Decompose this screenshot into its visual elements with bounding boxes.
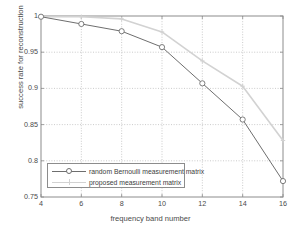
x-tick-label-6: 6 bbox=[79, 200, 83, 207]
y-tick-label-0-8: 0.8 bbox=[2, 157, 38, 164]
x-tick-label-12: 12 bbox=[198, 200, 206, 207]
legend-label-random-bernoulli: random Bernoulli measurement matrix bbox=[89, 168, 204, 175]
y-tick-label-0-75: 0.75 bbox=[2, 193, 38, 200]
x-tick-label-14: 14 bbox=[239, 200, 247, 207]
x-axis-label: frequency band number bbox=[0, 214, 301, 223]
line-chart-plot bbox=[0, 0, 301, 232]
y-axis-label-wrapper: success rate for reconstruction bbox=[9, 0, 27, 137]
y-axis-label: success rate for reconstruction bbox=[16, 5, 25, 108]
x-tick-label-8: 8 bbox=[120, 200, 124, 207]
figure-canvas: 1 0.95 0.9 0.85 0.8 0.75 4 6 8 10 12 14 … bbox=[0, 0, 301, 232]
x-tick-label-4: 4 bbox=[39, 200, 43, 207]
chart-legend: random Bernoulli measurement matrix prop… bbox=[47, 163, 185, 188]
legend-entry-proposed: proposed measurement matrix bbox=[48, 176, 184, 188]
legend-label-proposed: proposed measurement matrix bbox=[89, 179, 181, 186]
x-tick-label-16: 16 bbox=[279, 200, 287, 207]
legend-swatch-proposed bbox=[52, 176, 86, 188]
x-tick-label-10: 10 bbox=[158, 200, 166, 207]
